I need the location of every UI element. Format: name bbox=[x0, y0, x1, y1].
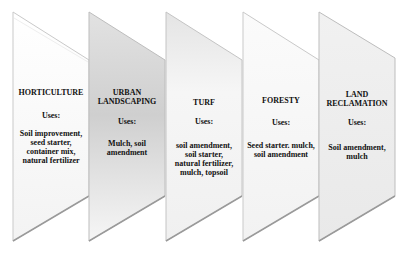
uses-line: natural fertilizer, bbox=[165, 159, 243, 168]
chevron-diagram: HORTICULTURE Uses: Soil improvement, see… bbox=[0, 0, 405, 254]
panel-turf: TURF Uses: soil amendment, soil starter,… bbox=[165, 0, 245, 254]
uses-label: Uses: bbox=[318, 118, 396, 127]
uses-line: soil starter, bbox=[165, 150, 243, 159]
uses-line: Mulch, soil bbox=[88, 139, 166, 148]
uses-line: mulch, topsoil bbox=[165, 168, 243, 177]
panel-horticulture: HORTICULTURE Uses: Soil improvement, see… bbox=[12, 0, 92, 254]
panel-foresty: FORESTY Uses: Seed starter. mulch, soil … bbox=[242, 0, 322, 254]
panel-land-reclamation: LAND RECLAMATION Uses: Soil amendment, m… bbox=[318, 0, 398, 254]
panel-title-line: URBAN bbox=[88, 88, 166, 97]
uses-line: soil amendment bbox=[242, 150, 320, 159]
chevron-shape bbox=[12, 0, 92, 254]
uses-line: Seed starter. mulch, bbox=[242, 141, 320, 150]
panel-urban-landscaping: URBAN LANDSCAPING Uses: Mulch, soil amen… bbox=[88, 0, 168, 254]
uses-line: Soil amendment, bbox=[318, 143, 396, 152]
panel-title-line: RECLAMATION bbox=[318, 99, 396, 108]
chevron-shape bbox=[318, 0, 398, 254]
panel-title: TURF bbox=[165, 98, 243, 107]
uses-line: mulch bbox=[318, 152, 396, 161]
uses-label: Uses: bbox=[12, 111, 90, 120]
uses-line: natural fertilizer bbox=[12, 156, 90, 165]
panel-title-line: LAND bbox=[318, 90, 396, 99]
uses-line: Soil improvement, bbox=[12, 129, 90, 138]
uses-line: amendment bbox=[88, 148, 166, 157]
chevron-shape bbox=[88, 0, 168, 254]
chevron-shape bbox=[165, 0, 245, 254]
panel-title-line: LANDSCAPING bbox=[88, 97, 166, 106]
uses-line: container mix, bbox=[12, 147, 90, 156]
uses-label: Uses: bbox=[165, 117, 243, 126]
uses-label: Uses: bbox=[242, 118, 320, 127]
chevron-shape bbox=[242, 0, 322, 254]
panel-title: HORTICULTURE bbox=[12, 88, 90, 97]
uses-label: Uses: bbox=[88, 117, 166, 126]
uses-line: seed starter, bbox=[12, 138, 90, 147]
uses-line: soil amendment, bbox=[165, 141, 243, 150]
panel-title: FORESTY bbox=[242, 96, 320, 105]
